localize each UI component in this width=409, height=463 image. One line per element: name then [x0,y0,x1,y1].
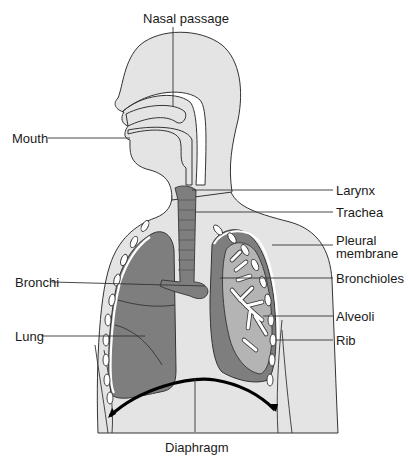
respiratory-system-diagram: Nasal passage Mouth Larynx Trachea Pleur… [0,0,409,463]
label-larynx: Larynx [336,183,376,198]
label-alveoli: Alveoli [336,309,374,324]
label-pleural-membrane-2: membrane [336,246,398,261]
label-lung: Lung [15,329,44,344]
label-bronchioles: Bronchioles [336,271,404,286]
label-bronchi: Bronchi [15,275,59,290]
label-mouth: Mouth [12,131,48,146]
label-diaphragm: Diaphragm [165,440,229,455]
label-rib: Rib [336,333,356,348]
label-trachea: Trachea [336,205,384,220]
label-nasal-passage: Nasal passage [143,11,229,26]
